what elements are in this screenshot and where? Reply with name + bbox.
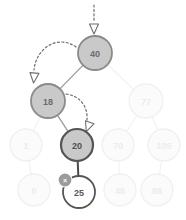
- tree-edge: [78, 161, 79, 176]
- tree-node-20[interactable]: 20: [61, 129, 93, 161]
- arrow-root-to-left-path: [34, 42, 76, 70]
- tree-edge: [127, 115, 137, 131]
- close-x-icon[interactable]: ×: [58, 173, 72, 187]
- tree-node-77[interactable]: 77: [129, 84, 163, 118]
- tree-edge: [119, 161, 120, 174]
- tree-edge: [57, 115, 68, 131]
- tree-node-105[interactable]: 105: [148, 129, 180, 161]
- tree-node-18[interactable]: 18: [31, 84, 65, 118]
- tree-node-circle: [10, 129, 42, 161]
- arrow-root-to-left-head: [29, 73, 39, 84]
- tree-node-70[interactable]: 70: [102, 129, 134, 161]
- node-badges-group: ×: [58, 173, 72, 187]
- tree-node-circle: [18, 174, 50, 206]
- tree-edge: [159, 161, 161, 174]
- tree-edges-group: [29, 65, 162, 176]
- tree-node-45[interactable]: 45: [104, 174, 136, 206]
- arrow-entry-head: [90, 24, 99, 34]
- arrow-left-to-right-child-path: [66, 94, 87, 120]
- tree-edge: [107, 65, 133, 90]
- tree-diagram-canvas: 401877120701050254588 ×: [0, 0, 186, 220]
- tree-edge: [152, 117, 158, 130]
- tree-node-circle: [78, 36, 112, 70]
- tree-node-circle: [141, 174, 173, 206]
- tree-node-circle: [148, 129, 180, 161]
- tree-node-circle: [129, 84, 163, 118]
- tree-node-circle: [102, 129, 134, 161]
- tree-node-circle: [104, 174, 136, 206]
- tree-node-40[interactable]: 40: [78, 36, 112, 70]
- tree-edge: [33, 116, 40, 130]
- tree-node-circle: [31, 84, 65, 118]
- tree-edge: [60, 65, 83, 89]
- tree-diagram-svg: 401877120701050254588 ×: [0, 0, 186, 220]
- tree-node-88[interactable]: 88: [141, 174, 173, 206]
- tree-node-circle: [61, 129, 93, 161]
- tree-node-1[interactable]: 1: [10, 129, 42, 161]
- tree-node-0[interactable]: 0: [18, 174, 50, 206]
- badge-label: ×: [63, 177, 67, 184]
- tree-edge: [29, 161, 31, 175]
